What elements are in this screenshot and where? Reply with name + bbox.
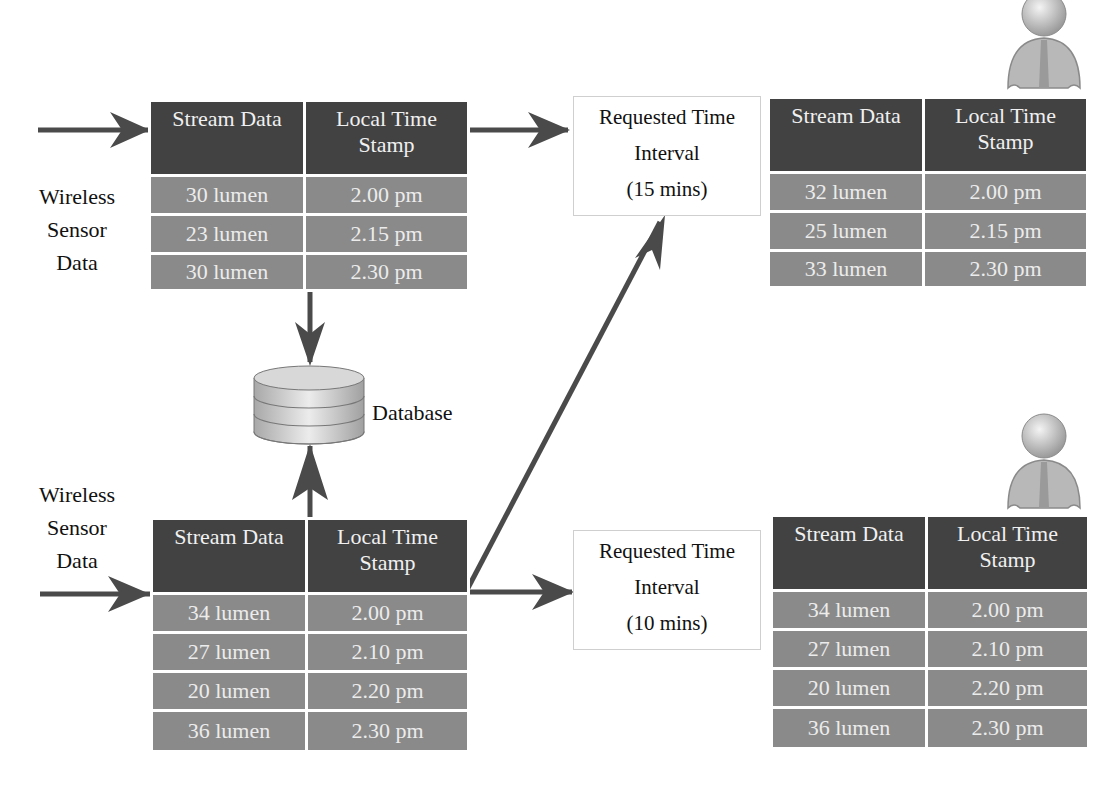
table-row: 27 lumen 2.10 pm <box>773 631 1087 667</box>
header-local-time: Local TimeStamp <box>308 520 467 592</box>
cell-stream: 20 lumen <box>773 670 925 706</box>
header-stream-data: Stream Data <box>770 99 922 171</box>
header-local-time: Local TimeStamp <box>928 517 1087 589</box>
cell-stream: 27 lumen <box>153 634 305 670</box>
sensor-label-line: Sensor <box>22 511 132 544</box>
table-row: 33 lumen 2.30 pm <box>770 252 1086 286</box>
sensor-label-line: Wireless <box>22 478 132 511</box>
cell-time: 2.30 pm <box>308 712 467 750</box>
cell-time: 2.15 pm <box>925 213 1086 249</box>
table-row: 30 lumen 2.30 pm <box>151 255 467 289</box>
cell-stream: 33 lumen <box>770 252 922 286</box>
table-row: 32 lumen 2.00 pm <box>770 174 1086 210</box>
table-row: 34 lumen 2.00 pm <box>773 592 1087 628</box>
cell-stream: 30 lumen <box>151 177 303 213</box>
cell-stream: 30 lumen <box>151 255 303 289</box>
user-icon-top <box>1008 0 1080 88</box>
cell-time: 2.10 pm <box>308 634 467 670</box>
request-interval-bottom: Requested Time Interval (10 mins) <box>573 530 761 650</box>
sensor-label-line: Sensor <box>22 213 132 246</box>
cell-stream: 25 lumen <box>770 213 922 249</box>
cell-time: 2.00 pm <box>925 174 1086 210</box>
arrow-top-table-to-database <box>295 292 325 366</box>
cell-stream: 32 lumen <box>770 174 922 210</box>
header-stream-data: Stream Data <box>151 102 303 174</box>
table-row: 36 lumen 2.30 pm <box>773 709 1087 747</box>
request-line: Requested Time <box>574 533 760 569</box>
database-label: Database <box>372 396 453 429</box>
cell-stream: 20 lumen <box>153 673 305 709</box>
sensor-label-line: Data <box>22 544 132 577</box>
user-icon-bottom <box>1008 414 1080 508</box>
request-line: Requested Time <box>574 99 760 135</box>
table-row: 30 lumen 2.00 pm <box>151 177 467 213</box>
header-stream-data: Stream Data <box>153 520 305 592</box>
table-row: 36 lumen 2.30 pm <box>153 712 467 750</box>
request-line: Interval <box>574 569 760 605</box>
table-row: 25 lumen 2.15 pm <box>770 213 1086 249</box>
table-row: 20 lumen 2.20 pm <box>773 670 1087 706</box>
arrow-top-table-to-request <box>466 112 570 148</box>
sensor-label-line: Wireless <box>22 180 132 213</box>
table-row: 23 lumen 2.15 pm <box>151 216 467 252</box>
sensor-label-top: Wireless Sensor Data <box>22 180 132 279</box>
cell-time: 2.20 pm <box>928 670 1087 706</box>
sensor-label-line: Data <box>22 246 132 279</box>
arrow-bottom-table-to-database <box>292 444 328 518</box>
cell-time: 2.20 pm <box>308 673 467 709</box>
table-row: 20 lumen 2.20 pm <box>153 673 467 709</box>
cell-time: 2.15 pm <box>306 216 467 252</box>
arrow-sensor-bottom-in <box>40 576 150 612</box>
table-row: 34 lumen 2.00 pm <box>153 595 467 631</box>
cell-stream: 34 lumen <box>153 595 305 631</box>
cell-stream: 27 lumen <box>773 631 925 667</box>
sensor-label-bottom: Wireless Sensor Data <box>22 478 132 577</box>
header-local-time: Local TimeStamp <box>306 102 467 174</box>
cell-time: 2.30 pm <box>925 252 1086 286</box>
sensor-bottom-table: Stream Data Local TimeStamp 34 lumen 2.0… <box>150 517 470 753</box>
arrow-sensor-top-in <box>38 112 150 148</box>
cell-time: 2.30 pm <box>306 255 467 289</box>
cell-stream: 36 lumen <box>773 709 925 747</box>
user-bottom-table: Stream Data Local TimeStamp 34 lumen 2.0… <box>770 514 1090 750</box>
request-line: (10 mins) <box>574 605 760 641</box>
cell-stream: 34 lumen <box>773 592 925 628</box>
sensor-top-table: Stream Data Local TimeStamp 30 lumen 2.0… <box>148 99 470 292</box>
request-interval-top: Requested Time Interval (15 mins) <box>573 96 761 216</box>
header-local-time: Local TimeStamp <box>925 99 1086 171</box>
database-icon <box>254 366 364 444</box>
request-line: Interval <box>574 135 760 171</box>
arrow-bottom-table-to-request <box>466 574 574 610</box>
table-row: 27 lumen 2.10 pm <box>153 634 467 670</box>
cell-stream: 23 lumen <box>151 216 303 252</box>
cell-stream: 36 lumen <box>153 712 305 750</box>
cell-time: 2.30 pm <box>928 709 1087 747</box>
cell-time: 2.00 pm <box>928 592 1087 628</box>
header-stream-data: Stream Data <box>773 517 925 589</box>
cell-time: 2.10 pm <box>928 631 1087 667</box>
user-top-table: Stream Data Local TimeStamp 32 lumen 2.0… <box>767 96 1089 289</box>
request-line: (15 mins) <box>574 171 760 207</box>
cell-time: 2.00 pm <box>306 177 467 213</box>
cell-time: 2.00 pm <box>308 595 467 631</box>
